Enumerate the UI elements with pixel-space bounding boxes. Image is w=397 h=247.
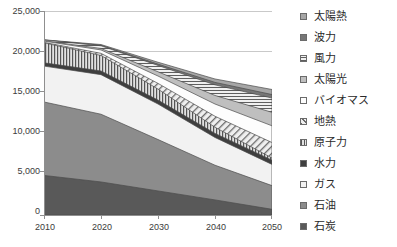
stacked-bands: [44, 40, 272, 215]
legend-item-wave[interactable]: 波力: [300, 27, 336, 48]
x-axis-label-2010: 2010: [25, 222, 65, 232]
legend-label-hydro: 水力: [314, 158, 336, 169]
legend-item-biomass[interactable]: バイオマス: [300, 90, 369, 111]
legend-item-geothermal[interactable]: 地熱: [300, 111, 336, 132]
x-axis-label-2020: 2020: [82, 222, 122, 232]
x-axis-ticks: [45, 216, 272, 220]
legend-item-oil[interactable]: 石油: [300, 195, 336, 216]
stacked-area-chart: 25,000 20,000 15,000 10,000 5,000 0: [0, 0, 397, 247]
legend-label-biomass: バイオマス: [314, 95, 369, 106]
legend-swatch-hydro: [300, 160, 307, 167]
legend-swatch-solar-thermal: [300, 13, 307, 20]
legend-swatch-solar-pv: [300, 76, 307, 83]
legend-swatch-gas: [300, 181, 307, 188]
legend-swatch-biomass: [300, 97, 307, 104]
x-axis-label-2050: 2050: [252, 222, 292, 232]
legend-swatch-wave: [300, 34, 307, 41]
legend-item-solar-thermal[interactable]: 太陽熱: [300, 6, 347, 27]
legend-item-gas[interactable]: ガス: [300, 174, 336, 195]
legend-label-nuclear: 原子力: [314, 137, 347, 148]
chart-legend: 太陽熱 波力 風力 太陽光 バイオマス 地熱 原子力 水力: [300, 4, 397, 244]
legend-label-solar-thermal: 太陽熱: [314, 11, 347, 22]
x-axis-label-2030: 2030: [139, 222, 179, 232]
legend-item-wind[interactable]: 風力: [300, 48, 336, 69]
legend-label-gas: ガス: [314, 179, 336, 190]
legend-label-wave: 波力: [314, 32, 336, 43]
plot-svg: [0, 0, 290, 247]
y-axis-ticks: [40, 12, 44, 216]
legend-item-hydro[interactable]: 水力: [300, 153, 336, 174]
legend-swatch-coal: [300, 223, 307, 230]
legend-item-solar-pv[interactable]: 太陽光: [300, 69, 347, 90]
legend-item-coal[interactable]: 石炭: [300, 216, 336, 237]
legend-label-oil: 石油: [314, 200, 336, 211]
legend-label-solar-pv: 太陽光: [314, 74, 347, 85]
plot-area: [0, 0, 290, 247]
legend-label-geothermal: 地熱: [314, 116, 336, 127]
legend-swatch-oil: [300, 202, 307, 209]
legend-item-nuclear[interactable]: 原子力: [300, 132, 347, 153]
legend-swatch-geothermal: [300, 118, 307, 125]
x-axis-label-2040: 2040: [196, 222, 236, 232]
legend-swatch-wind: [300, 55, 307, 62]
legend-swatch-nuclear: [300, 139, 307, 146]
legend-label-coal: 石炭: [314, 221, 336, 232]
legend-label-wind: 風力: [314, 53, 336, 64]
